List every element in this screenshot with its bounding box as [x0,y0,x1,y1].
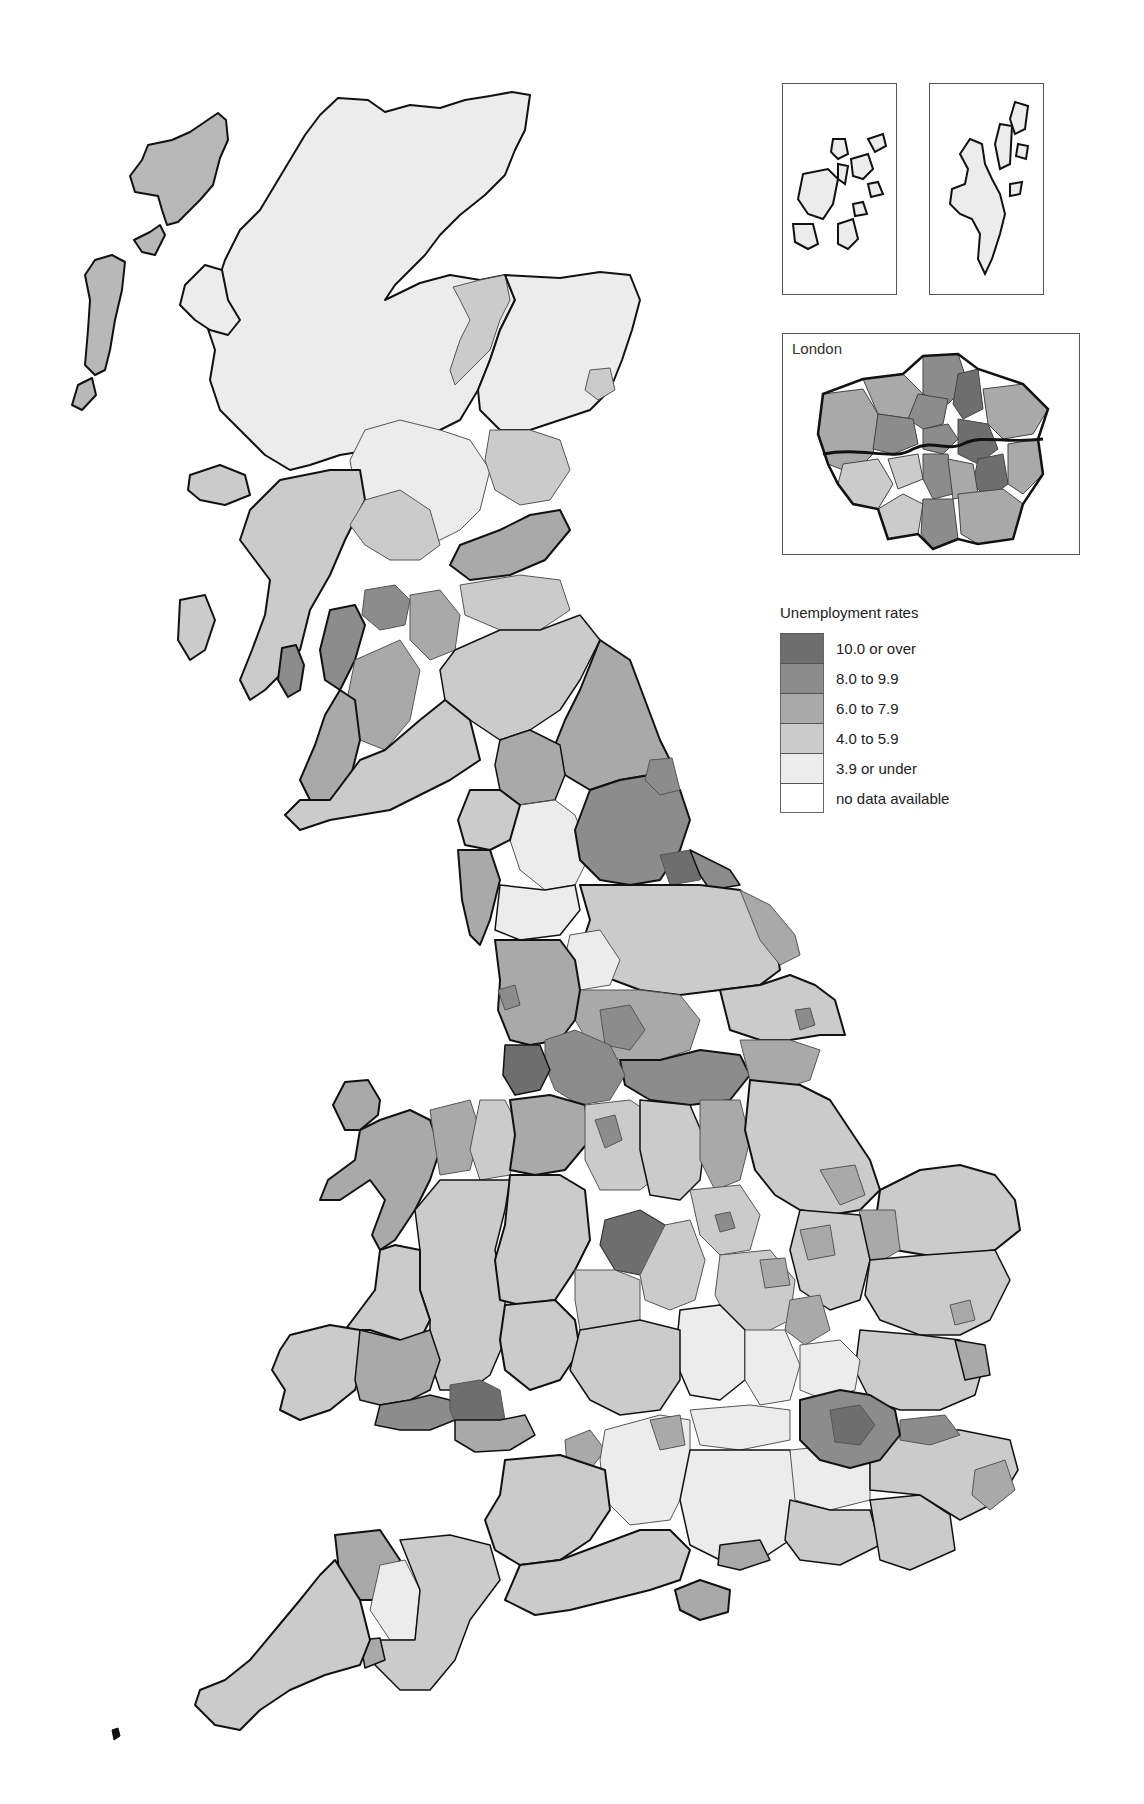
legend-label: 3.9 or under [836,760,917,777]
borough-outer-north-east [983,384,1048,439]
legend-label: 4.0 to 5.9 [836,730,899,747]
region-arran [278,645,304,697]
region-ceredigion [345,1245,430,1340]
legend-swatch [780,753,824,783]
orkney-inset [782,83,897,295]
region-oxfordshire [675,1305,745,1400]
legend-label: no data available [836,790,949,807]
region-south-lakeland [495,885,580,940]
legend-item-no-data: no data available [780,783,1040,813]
region-herefordshire [500,1300,580,1390]
region-buckinghamshire [745,1330,800,1405]
london-boroughs-map [783,334,1079,554]
legend-label: 10.0 or over [836,640,916,657]
orkney-islands-map [783,84,896,294]
shetland-islands-map [930,84,1043,294]
legend-title: Unemployment rates [780,604,1040,621]
region-outer-hebrides-uists [85,255,125,375]
region-cardiff-newport [455,1415,535,1452]
region-outer-hebrides-lewis [130,113,228,225]
region-outer-hebrides-harris [134,225,165,255]
legend-label: 6.0 to 7.9 [836,700,899,717]
region-isles-of-scilly [112,1728,120,1740]
region-islay-jura [178,595,215,660]
legend-label: 8.0 to 9.9 [836,670,899,687]
shetland-inset [929,83,1044,295]
region-edinburgh-lothian [460,575,570,630]
legend-item-8-to-9-9: 8.0 to 9.9 [780,663,1040,693]
legend-swatch [780,693,824,723]
region-nottinghamshire [700,1100,750,1190]
borough-north-east [953,369,983,419]
region-copeland [458,850,500,945]
region-cheshire [510,1095,590,1175]
london-inset: London [782,333,1080,555]
borough-west-central [873,414,918,454]
region-mull [188,465,250,505]
region-carmarthenshire [355,1330,440,1405]
region-glasgow [362,585,410,630]
legend-swatch [780,633,824,663]
legend-swatch [780,663,824,693]
legend-swatch [780,723,824,753]
region-west-sussex [785,1500,880,1565]
region-corby [760,1258,790,1288]
region-portsmouth-southampton [718,1540,770,1570]
region-angus [485,430,570,505]
region-merseyside [503,1045,550,1095]
legend-item-10-or-over: 10.0 or over [780,633,1040,663]
region-derbyshire [640,1100,705,1200]
legend-swatch [780,783,824,813]
borough-south-west [838,459,893,509]
region-ipswich [950,1300,975,1325]
region-berkshire [690,1405,790,1450]
borough-central [923,424,958,454]
legend-item-3-9-or-under: 3.9 or under [780,753,1040,783]
region-gloucestershire [570,1320,680,1415]
region-isle-of-wight [675,1580,730,1620]
region-pembrokeshire [272,1325,365,1420]
region-cornwall [195,1560,370,1730]
legend-item-4-to-5-9: 4.0 to 5.9 [780,723,1040,753]
legend-item-6-to-7-9: 6.0 to 7.9 [780,693,1040,723]
borough-outer-east [1008,439,1043,494]
region-suffolk [865,1250,1010,1335]
map-legend: Unemployment rates 10.0 or over 8.0 to 9… [780,604,1040,813]
region-lanarkshire [410,590,460,660]
region-outer-hebrides-barra [72,378,96,410]
